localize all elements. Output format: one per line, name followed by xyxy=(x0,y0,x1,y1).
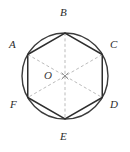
geometry-figure: A B C D E F O xyxy=(0,0,130,152)
center-label-O: O xyxy=(44,70,52,81)
vertex-label-B: B xyxy=(60,7,67,18)
vertex-label-D: D xyxy=(110,99,118,110)
vertex-label-A: A xyxy=(9,39,16,50)
vertex-label-E: E xyxy=(60,131,67,142)
vertex-label-F: F xyxy=(10,99,17,110)
vertex-label-C: C xyxy=(110,39,117,50)
